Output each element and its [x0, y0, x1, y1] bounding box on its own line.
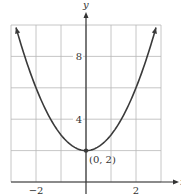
y-tick-label: 8 [76, 51, 82, 62]
tick-labels: −2248 [29, 50, 140, 196]
y-axis-label: y [82, 0, 89, 10]
x-tick-label: −2 [29, 185, 44, 196]
y-tick-label: 4 [76, 114, 82, 125]
parabola-chart: (0, 2) x y −2248 [0, 0, 181, 196]
vertex-point [84, 148, 88, 152]
x-axis-label: x [180, 176, 181, 187]
vertex-label: (0, 2) [89, 154, 116, 165]
x-tick-label: 2 [133, 185, 139, 196]
